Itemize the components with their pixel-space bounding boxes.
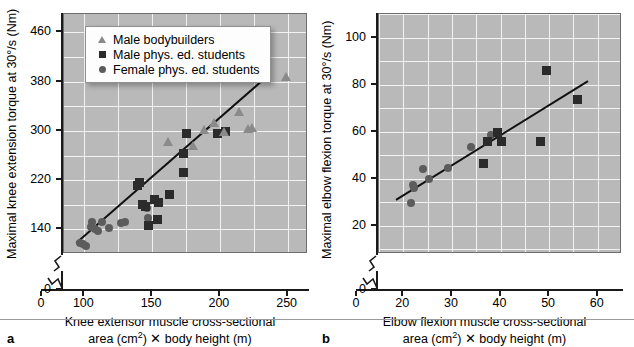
data-point <box>247 123 257 132</box>
data-point <box>419 165 427 173</box>
y-tick <box>371 288 376 290</box>
data-point <box>542 66 551 75</box>
data-point <box>479 159 488 168</box>
y-axis-a <box>61 13 63 255</box>
y-tick-label: 220 <box>11 173 51 186</box>
x-axis-b <box>356 289 623 291</box>
data-point <box>179 149 188 158</box>
x-tick-label: 150 <box>131 297 171 310</box>
x-axis-a <box>41 289 309 291</box>
triangle-marker-icon <box>93 36 111 43</box>
y-tick-label: 100 <box>326 31 366 44</box>
data-point <box>209 118 219 127</box>
y-tick-label: 380 <box>11 75 51 88</box>
data-point <box>153 215 162 224</box>
data-point <box>573 95 582 104</box>
data-point <box>135 178 144 187</box>
panel-a: Maximal knee extension torque at 30°/s (… <box>0 0 317 328</box>
y-axis-b <box>376 13 378 255</box>
y-tick-label: 80 <box>326 78 366 91</box>
y-axis-lower-segment <box>376 271 378 289</box>
y-tick-label: 40 <box>326 172 366 185</box>
data-point <box>188 141 198 150</box>
x-tick-label: 100 <box>63 297 103 310</box>
data-point <box>425 175 433 183</box>
legend-item-male-bodybuilders: Male bodybuilders <box>93 32 260 47</box>
data-point <box>165 190 174 199</box>
data-point <box>219 127 229 136</box>
y-tick <box>56 129 61 131</box>
data-point <box>179 168 188 177</box>
y-tick <box>56 30 61 32</box>
y-tick-label: 20 <box>326 219 366 232</box>
y-tick <box>56 178 61 180</box>
y-tick-label: 0 <box>326 283 366 296</box>
legend-label: Male bodybuilders <box>111 33 214 47</box>
panel-b: Maximal elbow flexion torque at 30°/s (N… <box>317 0 634 328</box>
x-tick-label: 60 <box>577 297 617 310</box>
plot-area-b <box>378 13 621 253</box>
data-point <box>144 221 153 230</box>
square-marker-icon <box>93 51 111 58</box>
panel-letter-a: a <box>7 331 14 346</box>
data-point <box>154 198 163 207</box>
y-tick-label: 0 <box>11 283 51 296</box>
legend-label: Male phys. ed. students <box>111 48 245 62</box>
data-point <box>141 202 150 211</box>
legend: Male bodybuilders Male phys. ed. student… <box>85 26 271 83</box>
data-point <box>94 227 102 235</box>
y-tick <box>56 227 61 229</box>
legend-item-female-students: Female phys. ed. students <box>93 62 260 77</box>
data-point <box>163 137 173 146</box>
x-tick-label: 0 <box>21 297 61 310</box>
x-tick-label: 20 <box>382 297 422 310</box>
circle-marker-icon <box>93 66 111 73</box>
y-axis-lower-segment <box>61 271 63 289</box>
data-point <box>105 224 113 232</box>
data-point <box>281 72 291 81</box>
x-tick-label: 50 <box>528 297 568 310</box>
y-tick-label: 460 <box>11 25 51 38</box>
x-tick-label: 200 <box>199 297 239 310</box>
y-tick-label: 300 <box>11 124 51 137</box>
y-tick <box>371 36 376 38</box>
data-point <box>199 125 209 134</box>
y-tick <box>371 130 376 132</box>
data-point <box>234 107 244 116</box>
legend-item-male-students: Male phys. ed. students <box>93 47 260 62</box>
legend-label: Female phys. ed. students <box>111 63 260 77</box>
x-tick-label: 40 <box>480 297 520 310</box>
data-point <box>82 242 90 250</box>
x-tick-label: 250 <box>267 297 307 310</box>
y-tick-label: 140 <box>11 222 51 235</box>
y-tick <box>371 224 376 226</box>
data-point <box>536 137 545 146</box>
data-point <box>121 218 129 226</box>
panel-letter-b: b <box>322 331 330 346</box>
data-point <box>483 137 492 146</box>
data-point <box>497 137 506 146</box>
y-tick <box>371 177 376 179</box>
y-tick <box>56 80 61 82</box>
data-point <box>182 129 191 138</box>
x-tick-label: 30 <box>431 297 471 310</box>
y-tick-label: 60 <box>326 125 366 138</box>
data-point <box>407 199 415 207</box>
footer-divider <box>0 319 634 320</box>
y-tick <box>371 83 376 85</box>
y-tick <box>56 288 61 290</box>
x-tick-label: 0 <box>336 297 376 310</box>
